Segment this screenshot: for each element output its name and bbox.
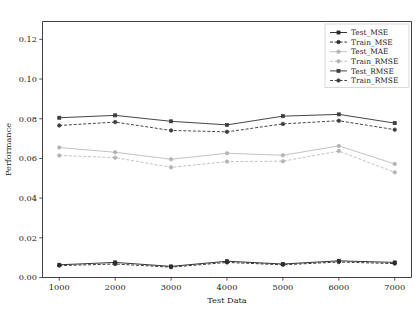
data-point-marker [58,264,62,268]
data-point-marker [337,79,341,83]
data-point-marker [393,171,397,175]
data-point-marker [58,146,62,150]
data-point-marker [281,159,285,163]
y-axis-title: Performance [3,123,13,176]
x-tick-label: 6000 [328,282,349,292]
data-point-marker [281,122,285,126]
data-point-marker [337,113,340,116]
data-point-marker [337,40,341,44]
data-point-marker [114,114,117,117]
data-point-marker [337,69,340,72]
data-point-marker [169,166,173,170]
data-point-marker [393,122,396,125]
x-tick-label: 7000 [384,282,405,292]
chart-legend: Test_MSETrain_MSETest_MAETrain_RMSETest_… [325,24,409,88]
data-series-group [58,113,397,269]
data-point-marker [281,263,285,267]
legend-label: Train_MSE [351,38,393,47]
series-train-mse-1 [58,260,397,269]
data-point-marker [393,262,397,266]
series-test-rmse-4 [58,113,397,127]
x-tick-label: 1000 [49,282,70,292]
data-point-marker [58,154,62,158]
data-point-marker [337,119,341,123]
x-tick-label: 5000 [272,282,293,292]
data-point-marker [337,60,341,64]
data-point-marker [281,154,285,158]
y-tick-label: 0.12 [19,34,37,44]
data-point-marker [113,156,117,160]
y-tick-label: 0.02 [19,233,37,243]
data-point-marker [113,120,117,124]
data-point-marker [58,116,61,119]
data-point-marker [337,31,340,34]
y-tick-label: 0.00 [19,272,37,282]
legend-label: Train_RMSE [351,76,398,85]
data-point-marker [225,130,229,134]
data-point-marker [337,50,341,54]
data-point-marker [337,144,341,148]
y-tick-label: 0.10 [19,74,37,84]
data-point-marker [393,128,397,132]
chart-figure: 0.000.020.040.060.080.100.12100020003000… [0,0,420,309]
legend-label: Train_RMSE [351,57,398,66]
data-point-marker [169,129,173,133]
data-point-marker [225,123,228,126]
x-axis-title: Test Data [207,295,247,305]
data-point-marker [225,160,229,164]
data-point-marker [393,162,397,166]
data-point-marker [58,124,62,128]
legend-label: Test_MAE [351,47,389,56]
y-tick-label: 0.06 [19,153,37,163]
data-point-marker [113,151,117,155]
data-point-marker [169,157,173,161]
x-tick-label: 3000 [161,282,182,292]
legend-label: Test_MSE [351,28,388,37]
data-point-marker [281,115,284,118]
data-point-marker [225,261,229,265]
x-tick-label: 2000 [105,282,126,292]
data-point-marker [170,120,173,123]
legend-label: Test_RMSE [351,67,394,76]
y-tick-label: 0.04 [19,193,37,203]
x-tick-label: 4000 [217,282,238,292]
data-point-marker [225,152,229,156]
data-point-marker [337,149,341,153]
data-point-marker [337,260,341,264]
y-tick-label: 0.08 [19,114,37,124]
data-point-marker [113,262,117,266]
performance-line-chart: 0.000.020.040.060.080.100.12100020003000… [0,0,420,309]
data-point-marker [169,265,173,269]
